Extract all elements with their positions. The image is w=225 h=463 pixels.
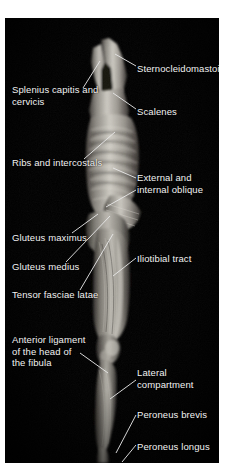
leader-oblique-upper <box>113 168 136 178</box>
label-anterior-ligament-of-the-head-of-the-fibula: Anterior ligament of the head of the fib… <box>12 334 104 369</box>
label-tensor-fasciae-latae: Tensor fasciae latae <box>12 289 99 301</box>
label-iliotibial-tract: Iliotibial tract <box>137 253 191 265</box>
label-lateral-compartment: Lateral compartment <box>137 367 215 390</box>
leader-sternocleidomastoid <box>115 54 136 66</box>
label-gluteus-medius: Gluteus medius <box>12 261 79 273</box>
anatomy-figure: Sternocleidomastoid Splenius capitis and… <box>0 0 225 463</box>
label-scalenes: Scalenes <box>137 106 177 118</box>
label-gluteus-maximus: Gluteus maximus <box>12 232 87 244</box>
leader-peroneus-brevis <box>116 415 136 453</box>
leader-gluteus-maximus <box>72 214 98 233</box>
label-splenius-capitis-and-cervicis: Splenius capitis and cervicis <box>12 84 124 107</box>
label-sternocleidomastoid: Sternocleidomastoid <box>137 63 219 75</box>
label-peroneus-longus: Peroneus longus <box>137 441 210 453</box>
leader-lateral-compartment <box>110 380 136 399</box>
photograph-plate: Sternocleidomastoid Splenius capitis and… <box>5 18 219 463</box>
label-external-and-internal-oblique: External and internal oblique <box>137 172 217 195</box>
leader-oblique-lower <box>106 190 136 207</box>
label-peroneus-brevis: Peroneus brevis <box>137 409 207 421</box>
leader-peroneus-longus <box>122 445 136 462</box>
leader-ribs <box>84 132 115 159</box>
leader-iliotibial-tract <box>113 258 136 276</box>
label-ribs-and-intercostals: Ribs and intercostals <box>12 157 102 169</box>
